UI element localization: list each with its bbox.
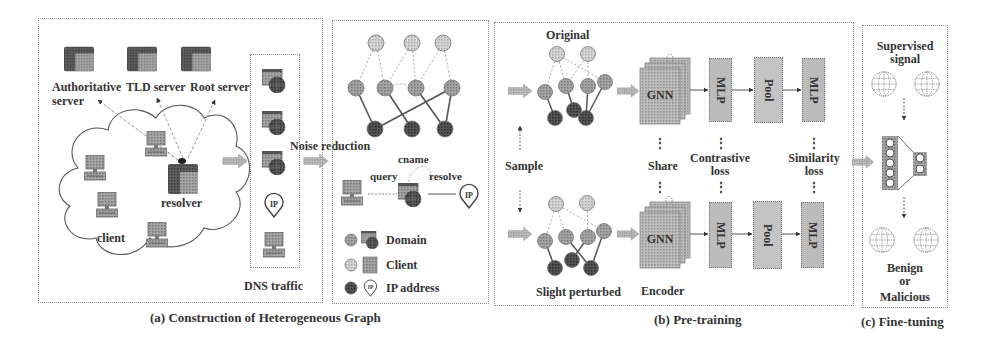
globe-icon xyxy=(870,70,898,98)
benign-or-malicious-label: Benign or Malicious xyxy=(862,262,948,304)
result-line3: Malicious xyxy=(862,291,948,304)
finetuning-diagram xyxy=(0,0,982,346)
classifier-layers-icon xyxy=(882,136,927,190)
result-line2: or xyxy=(862,275,948,288)
caption-c: (c) Fine-tuning xyxy=(861,314,944,330)
